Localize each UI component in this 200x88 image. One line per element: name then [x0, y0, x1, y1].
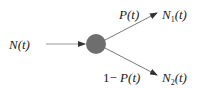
- upper-prob-arg: (t): [127, 7, 139, 22]
- output-2-var: N: [162, 70, 171, 85]
- split-node: [86, 34, 106, 54]
- upper-probability-label: P(t): [119, 8, 139, 21]
- splitting-diagram: N(t) P(t) N1(t) 1− P(t) N2(t): [0, 0, 200, 88]
- lower-prob-arg: (t): [128, 70, 140, 85]
- input-arg: (t): [18, 37, 30, 52]
- lower-prob-prefix: 1−: [103, 70, 120, 85]
- upper-prob-var: P: [119, 7, 127, 22]
- input-var: N: [9, 37, 18, 52]
- output-1-arg: (t): [175, 7, 187, 22]
- output-2-arg: (t): [175, 70, 187, 85]
- output-1-label: N1(t): [162, 8, 187, 24]
- output-2-label: N2(t): [162, 71, 187, 87]
- output-1-var: N: [162, 7, 171, 22]
- lower-probability-label: 1− P(t): [103, 71, 140, 84]
- lower-prob-var: P: [120, 70, 128, 85]
- input-label: N(t): [9, 38, 30, 51]
